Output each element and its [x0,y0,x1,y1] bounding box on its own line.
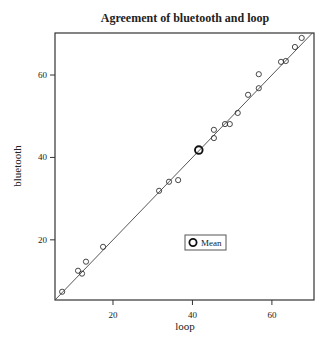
data-point-circle-icon [75,268,80,273]
mean-circle-icon [195,146,203,154]
scatter-chart: Agreement of bluetooth and loop 204060 2… [0,0,331,354]
data-point-circle-icon [256,72,261,77]
y-tick-label: 60 [38,70,48,80]
y-tick-label: 40 [38,152,48,162]
data-point-circle-icon [245,92,250,97]
y-axis: 204060 [38,70,55,245]
data-point-circle-icon [299,35,304,40]
data-point-circle-icon [83,259,88,264]
y-tick-label: 20 [38,235,48,245]
data-point-circle-icon [211,127,216,132]
mean-point [195,146,203,154]
identity-line [55,33,312,300]
legend: Mean [185,235,226,250]
x-axis-label: loop [175,320,195,332]
chart-title: Agreement of bluetooth and loop [101,11,270,25]
data-point-circle-icon [292,44,297,49]
data-point-circle-icon [100,244,105,249]
y-axis-label: bluetooth [11,145,23,187]
x-tick-label: 40 [188,310,198,320]
legend-mean-label: Mean [201,238,222,248]
data-point-circle-icon [211,135,216,140]
x-axis: 204060 [108,300,276,320]
data-points [60,35,305,294]
x-tick-label: 20 [108,310,118,320]
data-point-circle-icon [176,177,181,182]
x-tick-label: 60 [267,310,277,320]
data-point-circle-icon [60,289,65,294]
data-point-circle-icon [278,59,283,64]
